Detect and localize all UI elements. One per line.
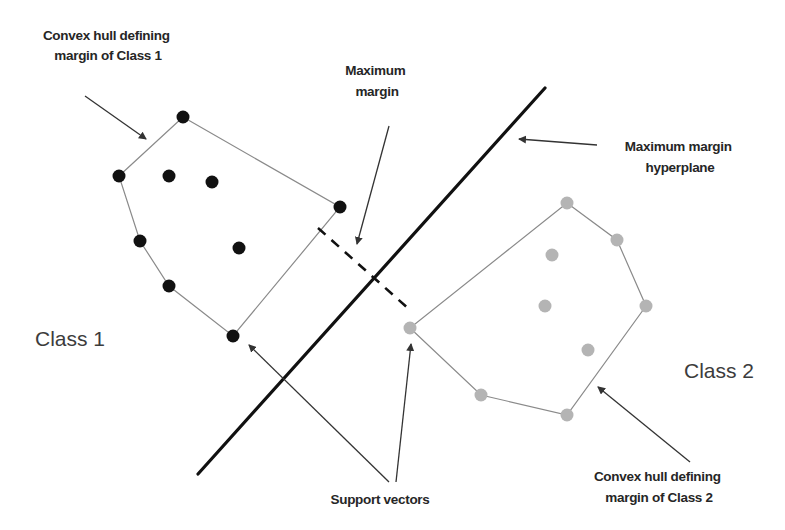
class-1-data-point [227, 330, 240, 343]
class-1-data-point [233, 242, 246, 255]
class-2-points [404, 197, 653, 422]
label-hull-class-1: Convex hull defining margin of Class 1 [43, 28, 173, 63]
arrow-support-vector-class-2 [396, 344, 411, 482]
maximum-margin-hyperplane [198, 88, 545, 474]
class-1-data-point [163, 170, 176, 183]
arrow-hull-class-1 [85, 96, 146, 139]
label-support-vectors: Support vectors [330, 492, 429, 507]
convex-hull-class-2 [410, 203, 646, 415]
label-maximum-margin: Maximum margin [345, 63, 409, 99]
class-1-data-point [177, 111, 190, 124]
svm-diagram: Convex hull defining margin of Class 1 M… [0, 0, 785, 530]
class-2-data-point [561, 197, 574, 210]
maximum-margin-dashed-line [318, 228, 410, 310]
label-hyperplane: Maximum margin hyperplane [625, 139, 735, 175]
label-class-2: Class 2 [684, 359, 754, 382]
class-2-data-point [475, 389, 488, 402]
class-1-data-point [163, 280, 176, 293]
class-2-data-point [640, 300, 653, 313]
arrow-hyperplane [519, 139, 597, 145]
class-1-points [113, 111, 347, 343]
class-1-data-point [134, 235, 147, 248]
label-hull-class-2: Convex hull defining margin of Class 2 [594, 469, 724, 505]
class-1-data-point [113, 170, 126, 183]
arrow-hull-class-2 [598, 387, 690, 462]
class-2-data-point [611, 234, 624, 247]
arrow-support-vector-class-1 [249, 345, 389, 482]
class-2-data-point [561, 409, 574, 422]
class-2-data-point [582, 344, 595, 357]
class-2-data-point [404, 322, 417, 335]
class-2-data-point [546, 249, 559, 262]
class-2-data-point [539, 300, 552, 313]
class-1-data-point [334, 201, 347, 214]
arrow-max-margin [357, 126, 389, 244]
convex-hull-class-1 [119, 117, 340, 336]
class-1-data-point [206, 176, 219, 189]
label-class-1: Class 1 [35, 327, 105, 350]
